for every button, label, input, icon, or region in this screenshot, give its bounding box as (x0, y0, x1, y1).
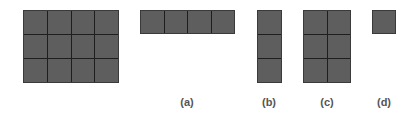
grid-cell (48, 35, 71, 58)
grid-cell (258, 59, 281, 82)
panel-b-label: (b) (254, 96, 284, 108)
panel-a-grid-1x4 (140, 10, 235, 34)
grid-cell (258, 11, 281, 34)
grid-cell (328, 59, 351, 82)
grid-cell (212, 11, 235, 33)
grid-cell (304, 59, 327, 82)
grid-cell (24, 11, 47, 34)
panel-d-grid-1x1 (372, 10, 396, 34)
grid-cell (72, 35, 95, 58)
grid-cell (165, 11, 188, 33)
grid-cell (48, 59, 71, 82)
panel-a-label: (a) (172, 96, 202, 108)
grid-cell (24, 59, 47, 82)
grid-cell (328, 35, 351, 58)
panel-c-grid-3x2 (303, 10, 351, 83)
grid-cell (95, 35, 118, 58)
grid-cell (24, 35, 47, 58)
grid-cell (72, 59, 95, 82)
grid-cell (72, 11, 95, 34)
grid-cell (95, 59, 118, 82)
grid-cell (373, 11, 395, 33)
panel-d-label: (d) (369, 96, 399, 108)
grid-cell (141, 11, 164, 33)
grid-cell (188, 11, 211, 33)
panel-c-label: (c) (312, 96, 342, 108)
grid-cell (48, 11, 71, 34)
grid-cell (304, 11, 327, 34)
main-grid-3x4 (23, 10, 119, 83)
grid-cell (304, 35, 327, 58)
panel-b-grid-3x1 (257, 10, 282, 83)
grid-cell (328, 11, 351, 34)
grid-cell (95, 11, 118, 34)
grid-cell (258, 35, 281, 58)
